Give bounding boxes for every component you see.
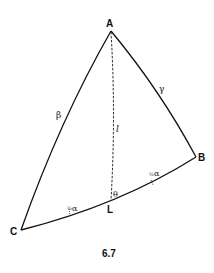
figure-caption: 6.7 xyxy=(102,248,116,259)
angle-theta-label: θ xyxy=(113,190,118,199)
half-alpha-symbol-1: α xyxy=(72,204,78,213)
side-gamma-label: γ xyxy=(159,84,164,94)
side-beta-label: β xyxy=(56,110,61,120)
side-ab xyxy=(111,31,196,157)
vertex-a-label: A xyxy=(106,18,113,29)
vertex-l-label: L xyxy=(107,204,113,215)
side-cb xyxy=(21,157,196,230)
vertex-c-label: C xyxy=(10,226,17,237)
median-l-label: l xyxy=(116,124,119,134)
median-al xyxy=(111,32,114,200)
vertex-b-label: B xyxy=(198,152,205,163)
half-alpha-symbol-2: α xyxy=(154,169,160,178)
spherical-triangle-diagram: A B C L β γ l θ ½ α ½ α 6.7 xyxy=(0,0,214,273)
side-ac xyxy=(21,31,111,230)
